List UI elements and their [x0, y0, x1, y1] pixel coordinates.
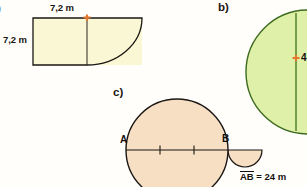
shape-a-top-dimension-label: 7,2 m [50, 3, 74, 13]
shape-b-group [246, 10, 307, 134]
item-label-c: c) [113, 87, 123, 99]
shape-a-left-dimension-label: 7,2 m [3, 35, 27, 45]
shape-b-circle [246, 10, 307, 134]
shape-c-caption: AB = 24 m [240, 171, 286, 182]
figure-canvas: ) 7,2 m 7,2 m b) 4 c) A B AB = 24 m [0, 0, 307, 187]
shape-c-point-b-label: B [222, 134, 229, 144]
shape-c-point-a-label: A [120, 135, 127, 145]
shape-a-group [33, 15, 142, 66]
shape-c-small-semicircle [228, 150, 262, 167]
shape-b-radius-label: 4 [301, 53, 307, 63]
item-label-a: ) [0, 2, 1, 14]
shape-c-main-circle [126, 99, 228, 187]
figures-vector-layer [0, 0, 307, 187]
item-label-b: b) [218, 2, 229, 14]
shape-c-caption-overline: AB [240, 171, 254, 182]
shape-c-caption-value: = 24 m [254, 171, 286, 182]
